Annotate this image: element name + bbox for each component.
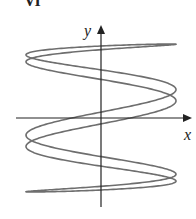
y-axis-arrow-icon xyxy=(97,25,105,34)
lissajous-plot: x y xyxy=(0,0,196,219)
y-axis-label: y xyxy=(82,22,92,40)
x-axis-label: x xyxy=(183,126,191,143)
x-axis-arrow-icon xyxy=(183,114,192,122)
